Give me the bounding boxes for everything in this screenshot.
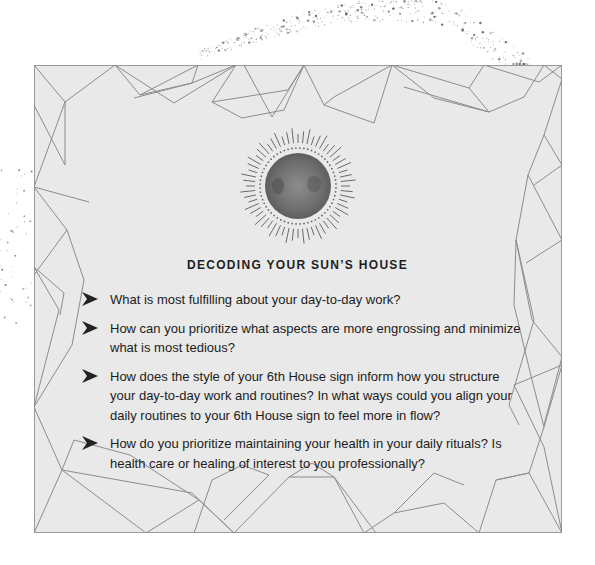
arrowhead-bullet-icon	[82, 436, 98, 450]
question-text: How can you prioritize what aspects are …	[110, 321, 520, 356]
question-item: How can you prioritize what aspects are …	[82, 319, 522, 358]
arrowhead-bullet-icon	[82, 369, 98, 383]
question-item: What is most fulfilling about your day-t…	[82, 290, 522, 310]
sun-icon	[240, 128, 356, 244]
arrowhead-bullet-icon	[82, 292, 98, 306]
question-item: How does the style of your 6th House sig…	[82, 367, 522, 426]
section-heading: DECODING YOUR SUN’S HOUSE	[0, 258, 595, 272]
arrowhead-bullet-icon	[82, 321, 98, 335]
question-list: What is most fulfilling about your day-t…	[82, 290, 522, 482]
question-text: What is most fulfilling about your day-t…	[110, 292, 400, 307]
question-text: How do you prioritize maintaining your h…	[110, 436, 502, 471]
question-item: How do you prioritize maintaining your h…	[82, 434, 522, 473]
question-text: How does the style of your 6th House sig…	[110, 369, 512, 423]
